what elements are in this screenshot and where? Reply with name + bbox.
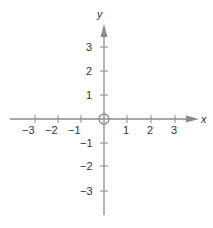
y-tick-label: 3 (86, 41, 92, 53)
x-axis-label: x (200, 113, 207, 125)
x-tick-label: −2 (45, 124, 58, 136)
x-axis-arrow-icon (186, 116, 199, 123)
x-tick-label: 1 (123, 124, 129, 136)
y-axis-label: y (96, 8, 104, 20)
x-tick-label: −1 (68, 124, 81, 136)
x-tick-label: 3 (171, 124, 177, 136)
coordinate-plane: x y −3 −2 −1 1 2 3 3 2 1 −1 −2 −3 (0, 0, 213, 228)
y-tick-label: 2 (86, 65, 92, 77)
y-tick-label: −1 (80, 137, 93, 149)
x-tick-label: −3 (22, 124, 35, 136)
y-tick-label: −2 (80, 160, 93, 172)
y-axis-arrow-icon (101, 24, 108, 37)
y-tick-label: −3 (80, 185, 93, 197)
x-tick-label: 2 (147, 124, 153, 136)
y-tick-label: 1 (86, 89, 92, 101)
